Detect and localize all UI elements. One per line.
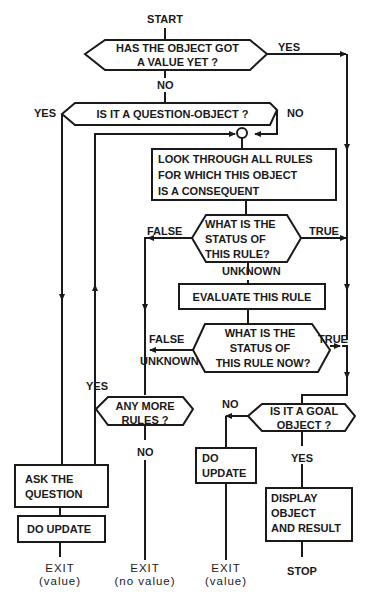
process-look-through-line1: LOOK THROUGH ALL RULES	[158, 152, 313, 166]
question-object-no-label: NO	[287, 106, 304, 120]
process-do-update-mid-line1: DO	[202, 451, 219, 465]
process-ask-question-line1: ASK THE	[25, 472, 73, 486]
more-rules-no-label: NO	[137, 445, 154, 459]
rule-status-now-true-label: TRUE	[318, 332, 348, 346]
decision-rule-status-line1: WHAT IS THE	[205, 217, 276, 231]
exit-value-mid-line1: EXIT	[196, 561, 256, 575]
rule-status-now-unknown-label: UNKNOWN	[140, 354, 199, 368]
decision-goal-object-line2: OBJECT ?	[258, 418, 350, 432]
process-display-line3: AND RESULT	[271, 521, 341, 535]
process-display-line2: OBJECT	[271, 506, 316, 520]
decision-more-rules-line2: RULES ?	[105, 413, 185, 427]
decision-goal-object-line1: IS IT A GOAL	[258, 404, 350, 418]
decision-has-value-line1: HAS THE OBJECT GOT	[100, 41, 255, 55]
rule-status-false-label: FALSE	[147, 224, 182, 238]
decision-rule-status-line2: STATUS OF	[205, 232, 266, 246]
decision-question-object-text: IS IT A QUESTION-OBJECT ?	[75, 107, 270, 121]
stop-label: STOP	[280, 564, 324, 578]
exit-value-mid-line2: (value)	[196, 574, 256, 588]
decision-rule-status-now-line3: THIS RULE NOW?	[203, 356, 323, 370]
rule-status-true-label: TRUE	[309, 224, 339, 238]
decision-rule-status-line3: THIS RULE?	[205, 247, 270, 261]
has-value-yes-label: YES	[278, 40, 300, 54]
process-do-update-mid-line2: UPDATE	[202, 466, 246, 480]
has-value-no-label: NO	[157, 78, 174, 92]
process-look-through-line3: IS A CONSEQUENT	[158, 184, 259, 198]
goal-object-yes-label: YES	[291, 451, 313, 465]
start-label: START	[143, 12, 187, 26]
exit-value-left-line1: EXIT	[30, 561, 90, 575]
rule-status-now-false-label: FALSE	[149, 332, 184, 346]
exit-no-value-line2: (no value)	[105, 574, 185, 588]
decision-has-value-line2: A VALUE YET ?	[100, 55, 255, 69]
decision-rule-status-now-line2: STATUS OF	[205, 341, 315, 355]
goal-object-no-label: NO	[222, 397, 239, 411]
exit-value-left-line2: (value)	[30, 574, 90, 588]
decision-rule-status-now-line1: WHAT IS THE	[205, 326, 315, 340]
process-ask-question-line2: QUESTION	[25, 487, 82, 501]
process-do-update-left-text: DO UPDATE	[27, 522, 91, 536]
process-look-through-line2: FOR WHICH THIS OBJECT	[158, 168, 297, 182]
exit-no-value-line1: EXIT	[105, 561, 185, 575]
process-evaluate-text: EVALUATE THIS RULE	[179, 290, 325, 304]
decision-more-rules-line1: ANY MORE	[105, 399, 185, 413]
junction-circle	[237, 128, 247, 138]
rule-status-unknown-label: UNKNOWN	[222, 264, 281, 278]
question-object-yes-label: YES	[34, 106, 56, 120]
more-rules-yes-label: YES	[86, 379, 108, 393]
process-display-line1: DISPLAY	[271, 491, 318, 505]
